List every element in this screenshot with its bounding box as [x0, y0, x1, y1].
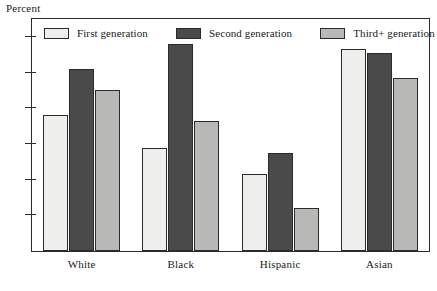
- legend-label-third-plus-generation: Third+ generation: [353, 27, 435, 39]
- legend-swatch-first-generation: [44, 28, 69, 39]
- x-axis-label: White: [32, 258, 131, 270]
- y-tick-mark: [25, 214, 36, 215]
- grouped-bar-chart: Percent 102030405060 First generation Se…: [0, 0, 437, 291]
- legend-swatch-second-generation: [176, 28, 201, 39]
- x-axis-label: Black: [131, 258, 230, 270]
- legend-entry-first-generation: First generation: [44, 27, 148, 39]
- bar-group: [341, 19, 418, 251]
- bars-layer: [32, 19, 429, 251]
- legend-swatch-third-plus-generation: [320, 28, 345, 39]
- chart-legend: First generation Second generation Third…: [31, 18, 430, 48]
- y-tick-mark: [25, 107, 36, 108]
- legend-entry-second-generation: Second generation: [176, 27, 292, 39]
- y-tick-mark: [25, 143, 36, 144]
- legend-label-second-generation: Second generation: [209, 27, 292, 39]
- bar-group: [43, 19, 120, 251]
- x-axis-label: Asian: [330, 258, 429, 270]
- legend-entry-third-plus-generation: Third+ generation: [320, 27, 435, 39]
- y-axis-title: Percent: [6, 2, 40, 14]
- y-tick-mark: [25, 179, 36, 180]
- bar-group: [142, 19, 219, 251]
- bar-group: [242, 19, 319, 251]
- legend-label-first-generation: First generation: [77, 27, 148, 39]
- y-tick-mark: [25, 72, 36, 73]
- x-axis-label: Hispanic: [231, 258, 330, 270]
